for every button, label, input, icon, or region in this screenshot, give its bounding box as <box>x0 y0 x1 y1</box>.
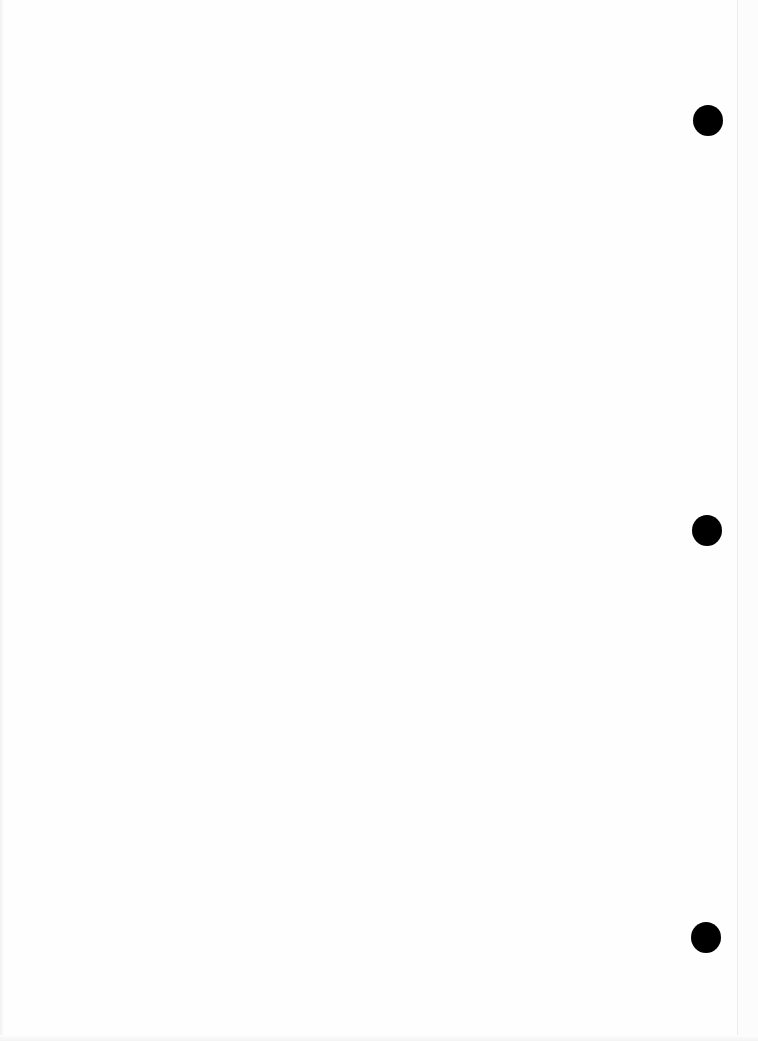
punch-hole-icon <box>692 515 722 546</box>
page-bottom-shadow <box>0 1035 758 1041</box>
scanned-page <box>0 0 758 1041</box>
page-left-shadow <box>0 0 4 1041</box>
punch-hole-icon <box>691 922 721 953</box>
punch-hole-icon <box>693 105 723 136</box>
page-right-margin <box>738 0 758 1041</box>
